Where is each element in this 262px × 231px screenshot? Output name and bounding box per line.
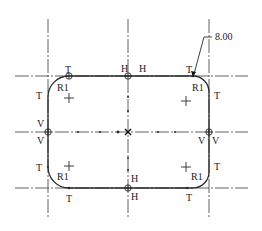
arc-center-bottom-right bbox=[181, 162, 191, 172]
radius-label-radius[interactable]: R1 bbox=[192, 82, 204, 93]
constraint-label-tangent[interactable]: T bbox=[66, 193, 72, 204]
constraint-label-tangent[interactable]: T bbox=[214, 161, 220, 172]
point-left-middle[interactable] bbox=[45, 129, 51, 135]
constraint-label-tangent[interactable]: T bbox=[36, 90, 42, 101]
arc-center-bottom-left bbox=[64, 161, 74, 171]
dimension-label[interactable]: 8.00 bbox=[215, 31, 233, 42]
constraint-label-vertical[interactable]: V bbox=[212, 135, 220, 146]
radius-label-radius[interactable]: R1 bbox=[57, 82, 69, 93]
constraint-label-tangent[interactable]: T bbox=[186, 64, 192, 75]
constraint-label-horizontal[interactable]: H bbox=[131, 191, 138, 202]
arc-center-top-left bbox=[64, 93, 74, 103]
constraint-label-vertical[interactable]: V bbox=[198, 135, 206, 146]
constraint-label-tangent[interactable]: T bbox=[186, 192, 192, 203]
radius-label-radius[interactable]: R1 bbox=[191, 171, 203, 182]
constraint-label-vertical[interactable]: V bbox=[37, 118, 45, 129]
constraint-label-vertical[interactable]: V bbox=[37, 135, 45, 146]
constraint-label-tangent[interactable]: T bbox=[65, 64, 71, 75]
radius-label-radius[interactable]: R1 bbox=[57, 171, 69, 182]
constraint-label-tangent[interactable]: T bbox=[214, 90, 220, 101]
constraint-label-horizontal[interactable]: H bbox=[121, 63, 128, 74]
constraint-label-horizontal[interactable]: H bbox=[131, 173, 138, 184]
sketch-canvas[interactable]: 8.00 TTTTTTTTHHHHVVVV R1R1R1R1 bbox=[0, 0, 262, 231]
arc-center-top-right bbox=[181, 96, 191, 106]
constraint-label-tangent[interactable]: T bbox=[36, 162, 42, 173]
constraint-label-horizontal[interactable]: H bbox=[139, 63, 146, 74]
